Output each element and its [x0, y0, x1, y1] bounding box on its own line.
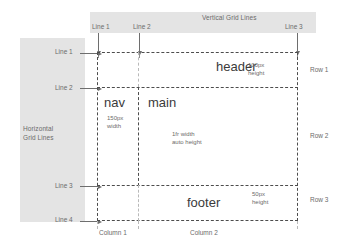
vertical-line-2-label: Line 2 — [133, 23, 151, 30]
column-line-1-guide — [97, 221, 98, 229]
area-footer-note-line-2: height — [252, 199, 268, 205]
horizontal-line-2-arrow — [80, 88, 98, 89]
area-header-note: 100pxheight — [248, 62, 264, 77]
area-main-note-line-1: 1fr width — [172, 131, 195, 137]
row-1-caption: Row 1 — [310, 66, 328, 73]
grid-row-line-1 — [97, 52, 298, 53]
grid-row-line-3 — [97, 185, 298, 186]
vertical-line-3-label: Line 3 — [285, 23, 303, 30]
area-main-note-line-2: auto height — [172, 139, 202, 145]
area-footer-note-line-1: 50px — [252, 191, 265, 197]
column-1-caption: Column 1 — [99, 229, 127, 236]
column-2-caption: Column 2 — [190, 229, 218, 236]
area-main-label: main — [148, 95, 176, 110]
horizontal-line-2-label: Line 2 — [55, 84, 73, 91]
area-nav-label: nav — [104, 95, 125, 110]
area-footer-note: 50pxheight — [252, 191, 268, 206]
grid-column-line-2-upper — [138, 52, 139, 87]
area-nav-note-line-1: 150px — [107, 115, 123, 121]
vertical-line-1-arrow — [98, 33, 99, 52]
horizontal-title-line-1: Horizontal — [23, 125, 53, 132]
horizontal-grid-lines-title: HorizontalGrid Lines — [23, 124, 54, 142]
horizontal-line-4-label: Line 4 — [55, 216, 73, 223]
vertical-line-3-arrow — [297, 33, 298, 52]
vertical-line-1-label: Line 1 — [92, 23, 110, 30]
area-header-note-line-2: height — [248, 70, 264, 76]
grid-column-line-1 — [97, 52, 98, 221]
vertical-grid-lines-title: Vertical Grid Lines — [202, 14, 257, 21]
row-2-caption: Row 2 — [310, 132, 328, 139]
area-footer-label: footer — [187, 195, 220, 210]
grid-column-line-3 — [297, 52, 298, 221]
grid-row-line-4 — [97, 220, 298, 221]
grid-column-line-2-lower — [138, 185, 139, 221]
area-header-note-line-1: 100px — [248, 62, 264, 68]
grid-column-line-2-middle — [138, 87, 139, 186]
row-3-caption: Row 3 — [310, 196, 328, 203]
horizontal-line-3-arrow — [80, 186, 98, 187]
horizontal-line-1-label: Line 1 — [55, 48, 73, 55]
area-main-note: 1fr widthauto height — [172, 131, 202, 146]
horizontal-line-4-arrow — [80, 221, 98, 222]
vertical-line-2-arrow — [139, 33, 140, 52]
horizontal-title-line-2: Grid Lines — [23, 134, 54, 141]
column-line-3-guide — [297, 221, 298, 229]
diagram-canvas: Vertical Grid Lines HorizontalGrid Lines… — [0, 0, 346, 243]
horizontal-line-3-label: Line 3 — [55, 182, 73, 189]
area-nav-note-line-2: width — [107, 123, 121, 129]
grid-row-line-2 — [97, 87, 298, 88]
area-nav-note: 150pxwidth — [107, 115, 123, 130]
column-line-2-guide — [138, 221, 139, 229]
horizontal-line-1-arrow — [80, 53, 98, 54]
